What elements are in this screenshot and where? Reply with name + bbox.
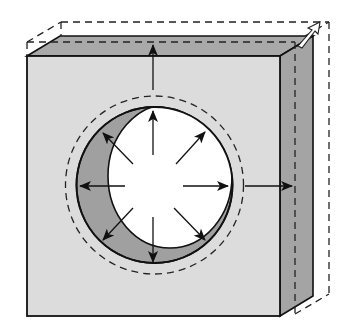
plate-side-face — [280, 36, 313, 316]
thermal-expansion-diagram — [0, 0, 351, 333]
plate-top-face — [27, 36, 313, 56]
